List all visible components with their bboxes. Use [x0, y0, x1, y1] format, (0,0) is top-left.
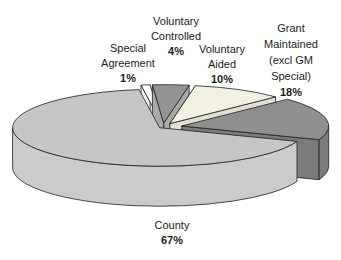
- pie-chart-figure: Special Agreement 1% Voluntary Controlle…: [0, 0, 341, 260]
- pie-3d: [0, 0, 341, 260]
